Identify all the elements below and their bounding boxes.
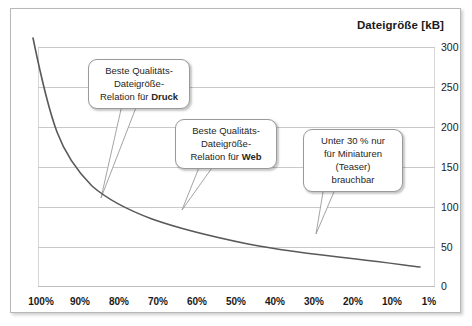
y-tick-300: 300 [441,41,459,53]
callout-web-line1: Beste Qualitäts- [183,124,269,137]
chart-title: Dateigröße [kB] [357,19,444,31]
x-tick-100pct: 100% [28,296,54,307]
callout-miniaturen-line3: (Teaser) [311,160,395,173]
gridline-50 [38,247,435,248]
x-tick-70pct: 70% [148,296,168,307]
y-tick-0: 0 [441,280,447,292]
y-tick-250: 250 [441,81,459,93]
callout-druck-emphasis: Druck [151,91,178,102]
callout-druck-line1: Beste Qualitäts- [96,64,182,77]
callout-miniaturen-line4: brauchbar [311,173,395,186]
x-tick-80pct: 80% [109,296,129,307]
callout-web-line2: Dateigröße- [183,137,269,150]
x-tick-20pct: 20% [343,296,363,307]
gridline-300 [38,47,435,48]
y-tick-50: 50 [441,241,453,253]
x-tick-1pct: 1% [422,296,436,307]
x-tick-30pct: 30% [304,296,324,307]
callout-web-line3: Relation für Web [183,150,269,163]
chart-root: Dateigröße [kB] 300 250 200 150 100 50 0… [0,0,472,326]
y-tick-200: 200 [441,121,459,133]
x-tick-50pct: 50% [226,296,246,307]
x-tick-40pct: 40% [265,296,285,307]
y-tick-100: 100 [441,201,459,213]
y-tick-150: 150 [441,161,459,173]
callout-druck-line3: Relation für Druck [96,90,182,103]
gridline-0 [38,286,435,287]
x-tick-90pct: 90% [70,296,90,307]
callout-web: Beste Qualitäts- Dateigröße- Relation fü… [175,119,277,169]
callout-miniaturen-line1: Unter 30 % nur [311,134,395,147]
callout-druck-line3-prefix: Relation für [100,91,151,102]
x-tick-10pct: 10% [382,296,402,307]
callout-miniaturen-line2: für Miniaturen [311,147,395,160]
callout-web-emphasis: Web [242,151,262,162]
gridline-100 [38,207,435,208]
callout-miniaturen: Unter 30 % nur für Miniaturen (Teaser) b… [303,129,403,192]
callout-druck: Beste Qualitäts- Dateigröße- Relation fü… [88,59,190,109]
x-tick-60pct: 60% [187,296,207,307]
callout-web-line3-prefix: Relation für [190,151,241,162]
callout-druck-line2: Dateigröße- [96,77,182,90]
